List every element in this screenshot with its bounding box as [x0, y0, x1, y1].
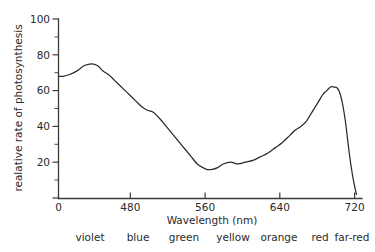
axes-group: [59, 19, 363, 199]
band-label-far-red: far-red: [335, 231, 370, 243]
band-label-yellow: yellow: [216, 231, 250, 243]
x-tick-label-0: 0: [55, 201, 62, 213]
x-axis-ticks: [130, 193, 354, 199]
x-tick-label-560: 560: [195, 201, 215, 213]
y-axis-ticks: [53, 19, 59, 198]
photosynthesis-action-spectrum-figure: 100 80 60 40 20 0 480 560 640 720 Wavele…: [0, 0, 375, 252]
x-tick-label-640: 640: [270, 201, 290, 213]
x-axis-title: Wavelength (nm): [167, 214, 258, 226]
x-tick-label-720: 720: [345, 201, 365, 213]
y-tick-label-20: 20: [37, 156, 50, 168]
photosynthesis-rate-curve: [59, 64, 357, 195]
y-axis-title: realative rate of photosynthesis: [12, 24, 24, 191]
band-label-green: green: [169, 231, 199, 243]
band-label-red: red: [311, 231, 328, 243]
y-tick-label-80: 80: [37, 49, 50, 61]
band-label-blue: blue: [127, 231, 150, 243]
chart-canvas: 100 80 60 40 20 0 480 560 640 720 Wavele…: [0, 0, 375, 252]
band-label-orange: orange: [261, 231, 298, 243]
y-tick-label-60: 60: [37, 84, 50, 96]
y-tick-label-40: 40: [37, 120, 50, 132]
y-tick-label-100: 100: [30, 13, 50, 25]
x-tick-label-480: 480: [120, 201, 140, 213]
band-label-violet: violet: [75, 231, 104, 243]
